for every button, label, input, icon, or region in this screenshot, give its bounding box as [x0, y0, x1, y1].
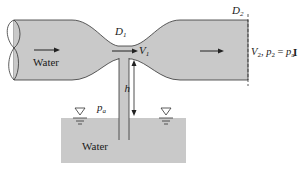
tank-water-label: Water	[82, 140, 108, 152]
throat-diameter-label: D1	[114, 25, 126, 39]
height-label: h	[125, 82, 131, 94]
venturi-diagram: Water Water D1 D2 V1 h pa V2, p2 = pa I	[0, 0, 301, 172]
exit-diameter-label: D2	[231, 4, 244, 18]
suction-tube	[119, 58, 129, 158]
figure-mark: I	[293, 46, 297, 58]
pipe-cut-end	[7, 20, 14, 80]
height-dimension	[132, 60, 137, 116]
tank-pressure-label: pa	[96, 101, 107, 115]
pipe-water-label: Water	[33, 56, 59, 68]
exit-conditions-label: V2, p2 = pa	[251, 46, 295, 59]
